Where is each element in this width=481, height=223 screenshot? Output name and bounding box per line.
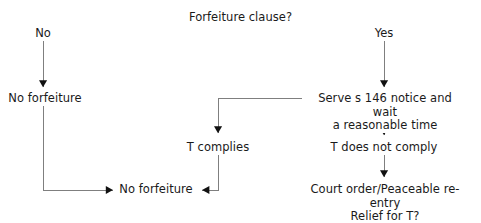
node-no-forfeiture-bottom: No forfeiture: [114, 183, 198, 197]
node-yes-label: Yes: [375, 26, 394, 40]
node-t-does-not-comply: T does not comply: [322, 141, 446, 155]
node-no-forfeiture-bottom-label: No forfeiture: [119, 182, 192, 196]
node-t-complies: T complies: [180, 141, 256, 155]
edge-noforfeiture-to-bottom: [43, 105, 113, 190]
node-serve-notice-line2: a reasonable time: [333, 118, 438, 132]
node-serve-notice-line1: Serve s 146 notice and wait: [318, 91, 452, 119]
node-no: No: [23, 27, 63, 41]
node-no-label: No: [35, 26, 51, 40]
node-forfeiture-clause: Forfeiture clause?: [0, 11, 481, 25]
flowchart-canvas: Forfeiture clause? No Yes No forfeiture …: [0, 0, 481, 223]
node-serve-notice: Serve s 146 notice and wait a reasonable…: [302, 92, 468, 133]
node-forfeiture-clause-label: Forfeiture clause?: [189, 10, 292, 24]
node-court-order-line2: Relief for T?: [351, 209, 420, 223]
node-no-forfeiture-left: No forfeiture: [0, 92, 90, 106]
node-yes: Yes: [364, 27, 404, 41]
node-court-order: Court order/Peaceable re-entry Relief fo…: [295, 183, 475, 223]
node-no-forfeiture-left-label: No forfeiture: [8, 91, 81, 105]
node-t-does-not-comply-label: T does not comply: [331, 140, 438, 154]
edge-serve-to-tcomplies: [218, 98, 312, 133]
node-court-order-line1: Court order/Peaceable re-entry: [310, 182, 459, 210]
node-t-complies-label: T complies: [187, 140, 250, 154]
edge-tcomplies-to-bottom: [202, 155, 218, 190]
